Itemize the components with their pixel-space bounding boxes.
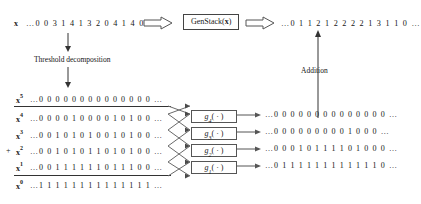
genstack-label-prefix: GenStack( <box>191 17 225 26</box>
row-variable-label-x4: x4 <box>16 113 23 124</box>
g-box-label: g <box>205 146 209 155</box>
row-variable-label-x3: x3 <box>16 130 23 141</box>
row-var-superscript: 4 <box>20 112 23 118</box>
gbox-output-sequence-g1: …0 1 1 1 1 1 1 1 1 1 1 1 1 0 … <box>265 161 398 170</box>
threshold-decomposition-caption: Threshold decomposition <box>34 55 110 64</box>
genstack-process-box: GenStack(x) <box>183 14 239 30</box>
gbox-output-sequence-g3: …0 0 0 0 0 0 0 0 0 1 0 0 0 … <box>265 127 390 136</box>
g-function-box-g3: g3( · ) <box>191 127 237 140</box>
addition-arrow-up-icon <box>313 30 323 118</box>
input-variable-label: x <box>14 19 18 28</box>
g-function-box-g4: g4( · ) <box>191 110 237 123</box>
row-var-superscript: 1 <box>20 161 23 167</box>
row-sequence-x2: …0 0 1 0 1 0 1 1 0 1 0 1 0 0 … <box>30 147 163 156</box>
row-variable-label-x5: x5 <box>16 94 23 105</box>
gbox-output-sequence-g4: …0 0 0 0 0 0 0 0 0 0 0 0 0 0 … <box>265 110 398 119</box>
g-box-argument: ( · ) <box>212 163 224 172</box>
row-sequence-x0: …1 1 1 1 1 1 1 1 1 1 1 1 1 1 … <box>30 181 163 190</box>
gbox-output-arrows <box>236 110 262 180</box>
g-box-argument: ( · ) <box>212 112 224 121</box>
rule-above-x0 <box>14 175 171 176</box>
g-box-argument: ( · ) <box>212 146 224 155</box>
g-function-box-g1: g1( · ) <box>191 161 237 174</box>
crossing-connectors-bundle <box>168 100 192 184</box>
g-function-box-g2: g2( · ) <box>191 144 237 157</box>
threshold-arrow-lower-icon <box>63 67 73 89</box>
output-sequence: …0 1 1 2 1 2 2 2 2 1 3 1 1 0 … <box>281 19 421 28</box>
plus-sign: + <box>6 146 11 155</box>
row-var-superscript: 3 <box>20 129 23 135</box>
row-variable-label-x1: x1 <box>16 162 23 173</box>
row-sequence-x4: …0 0 0 0 1 0 0 0 0 1 0 1 0 0 … <box>30 114 163 123</box>
row-var-superscript: 0 <box>20 179 23 185</box>
g-box-label: g <box>205 163 209 172</box>
row-variable-label-x0: x0 <box>16 180 23 191</box>
g-box-subscript: 2 <box>209 152 212 158</box>
row-sequence-x1: …0 0 1 1 1 1 1 1 0 1 1 1 0 0 … <box>30 163 163 172</box>
g-box-subscript: 3 <box>209 135 212 141</box>
arrow-right-from-genstack-icon <box>245 16 275 30</box>
arrow-right-to-genstack-icon <box>143 16 173 30</box>
gbox-output-sequence-g2: …0 0 0 1 0 1 1 1 1 0 1 0 0 0 … <box>265 144 398 153</box>
threshold-arrow-upper-icon <box>63 33 73 53</box>
row-var-superscript: 5 <box>20 93 23 99</box>
g-box-argument: ( · ) <box>212 129 224 138</box>
row-variable-label-x2: x2 <box>16 146 23 157</box>
g-box-subscript: 1 <box>209 169 212 175</box>
rule-above-x4 <box>14 106 171 107</box>
row-sequence-x5: …0 0 0 0 0 0 0 0 0 0 0 0 0 0 … <box>30 95 163 104</box>
row-sequence-x3: …0 0 1 0 1 0 1 0 0 1 0 1 0 0 … <box>30 131 163 140</box>
g-box-label: g <box>205 129 209 138</box>
g-box-subscript: 4 <box>209 118 212 124</box>
row-var-superscript: 2 <box>20 145 23 151</box>
g-box-label: g <box>205 112 209 121</box>
genstack-label-suffix: ) <box>229 17 232 26</box>
